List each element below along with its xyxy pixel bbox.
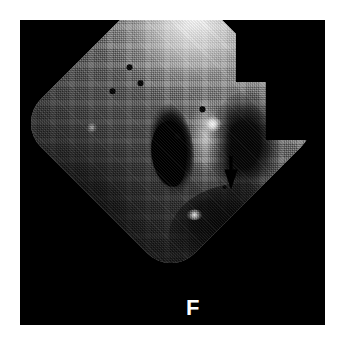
fov-notch-lower	[266, 20, 325, 140]
figure-root: F	[0, 0, 341, 346]
endoscopic-image-panel: F	[20, 20, 325, 325]
specular-highlight-lower	[187, 209, 203, 220]
dead-fiber-dot	[110, 88, 116, 94]
pointer-arrow-icon	[223, 156, 239, 190]
field-of-view-wrapper	[20, 20, 325, 325]
panel-letter-label: F	[186, 297, 199, 319]
dead-fiber-dot	[127, 63, 133, 69]
dead-fiber-dot	[250, 141, 254, 145]
dead-fiber-dot	[175, 133, 180, 138]
specular-highlight-left	[87, 123, 98, 132]
dead-fiber-dot	[200, 106, 205, 111]
dead-fiber-dot	[138, 80, 143, 85]
specular-highlight-main	[204, 116, 222, 132]
